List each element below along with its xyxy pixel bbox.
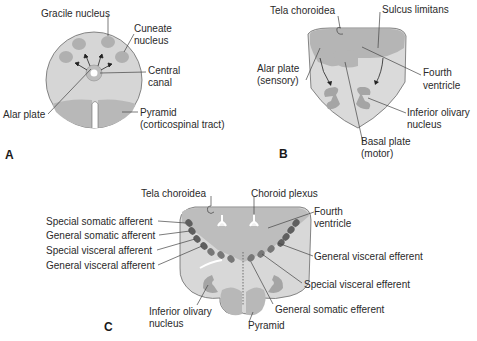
label-alar-plate-sensory-2: (sensory) (257, 75, 299, 86)
label-fourth-ventricle-b: Fourth (423, 67, 452, 78)
panel-b: Tela choroidea Sulcus limitans Alar plat… (257, 4, 470, 161)
label-central-canal-2: canal (148, 77, 172, 88)
label-pyramid-c: Pyramid (248, 320, 285, 331)
label-gracile-nucleus: Gracile nucleus (41, 8, 110, 19)
label-special-visceral-efferent: Special visceral efferent (304, 279, 410, 290)
label-general-somatic-afferent: General somatic afferent (46, 230, 156, 241)
pyramid-c-right (246, 287, 266, 315)
label-general-somatic-efferent: General somatic efferent (275, 304, 385, 315)
label-fourth-ventricle-c-2: ventricle (314, 218, 352, 229)
central-canal (91, 70, 98, 77)
label-tela-choroidea-c: Tela choroidea (141, 188, 206, 199)
label-choroid-plexus: Choroid plexus (251, 188, 318, 199)
label-cuneate-nucleus: Cuneate (134, 23, 172, 34)
label-pyramid: Pyramid (140, 107, 177, 118)
label-inferior-olivary-c: Inferior olivary (149, 306, 212, 317)
label-fourth-ventricle-c: Fourth (314, 206, 343, 217)
medulla-development-diagram: Gracile nucleus Cuneate nucleus Central … (0, 0, 477, 341)
panel-letter-a: A (5, 148, 14, 162)
label-alar-plate-sensory: Alar plate (257, 63, 300, 74)
label-inferior-olivary-c-2: nucleus (149, 318, 183, 329)
label-special-visceral-afferent: Special visceral afferent (46, 245, 152, 256)
label-fourth-ventricle-b-2: ventricle (423, 80, 461, 91)
pyramid-right (98, 100, 136, 129)
label-central-canal: Central (148, 65, 180, 76)
label-general-visceral-afferent: General visceral afferent (46, 260, 155, 271)
cuneate-nucleus-right (115, 51, 129, 63)
label-inferior-olivary-b: Inferior olivary (407, 107, 470, 118)
cuneate-nucleus-left (59, 51, 73, 63)
label-alar-plate: Alar plate (3, 109, 46, 120)
label-special-somatic-afferent: Special somatic afferent (46, 216, 153, 227)
label-corticospinal-tract: (corticospinal tract) (140, 119, 224, 130)
label-inferior-olivary-b-2: nucleus (407, 119, 441, 130)
label-general-visceral-efferent: General visceral efferent (314, 251, 423, 262)
label-basal-plate-motor-2: (motor) (361, 148, 393, 159)
panel-c: Tela choroidea Choroid plexus Fourth ven… (46, 188, 423, 334)
label-tela-choroidea-b: Tela choroidea (270, 5, 335, 16)
label-basal-plate-motor: Basal plate (361, 136, 411, 147)
label-sulcus-limitans: Sulcus limitans (382, 4, 449, 15)
gracile-nucleus-right (101, 36, 115, 48)
label-cuneate-nucleus-2: nucleus (134, 35, 168, 46)
ventral-fissure (92, 102, 98, 129)
gracile-nucleus-left (72, 38, 86, 50)
panel-letter-c: C (104, 320, 113, 334)
panel-a: Gracile nucleus Cuneate nucleus Central … (3, 8, 224, 162)
pyramid-c-left (220, 287, 242, 315)
panel-letter-b: B (279, 147, 288, 161)
